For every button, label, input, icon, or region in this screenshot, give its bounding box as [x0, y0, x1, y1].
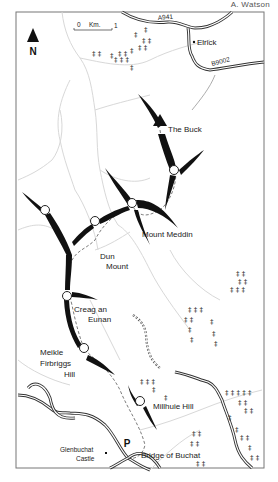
svg-text:‡ ‡ ‡: ‡ ‡ ‡ — [230, 286, 245, 294]
svg-text:‡: ‡ — [228, 414, 232, 422]
label-meikle-3: Hill — [64, 370, 75, 379]
svg-text:‡ ‡: ‡ ‡ — [238, 399, 248, 407]
svg-text:‡ ‡: ‡ ‡ — [250, 454, 260, 462]
label-glenbuchat-1: Glenbuchat — [60, 446, 93, 453]
svg-text:N: N — [29, 46, 36, 57]
svg-text:‡ ‡: ‡ ‡ — [236, 270, 246, 278]
svg-text:Km.: Km. — [89, 21, 101, 28]
svg-text:‡ ‡: ‡ ‡ — [196, 460, 206, 468]
elrick-dot — [193, 41, 195, 43]
boundary-line — [192, 75, 215, 110]
svg-text:‡ ‡: ‡ ‡ — [138, 44, 148, 52]
svg-text:‡: ‡ — [248, 444, 252, 452]
svg-text:‡: ‡ — [130, 64, 134, 72]
label-dun-mount-2: Mount — [106, 262, 129, 271]
svg-text:‡ ‡: ‡ ‡ — [92, 50, 102, 58]
label-the-buck: The Buck — [168, 125, 203, 134]
svg-text:‡ ‡: ‡ ‡ — [192, 430, 202, 438]
svg-text:‡: ‡ — [144, 26, 148, 34]
svg-text:‡: ‡ — [235, 426, 239, 434]
label-millhuie-hill: Millhuie Hill — [153, 402, 194, 411]
summit-circles — [41, 166, 179, 406]
svg-text:‡: ‡ — [152, 386, 156, 394]
road-label-a941: A941 — [157, 13, 173, 21]
north-arrow-icon: N — [27, 28, 39, 57]
svg-text:‡: ‡ — [210, 318, 214, 326]
scale-bar: 0 Km. 1 — [74, 21, 118, 30]
svg-text:‡: ‡ — [130, 47, 134, 55]
road-label-b9002: B9002 — [210, 55, 230, 67]
castle-marker — [105, 452, 107, 454]
svg-text:‡ ‡ ‡: ‡ ‡ ‡ — [140, 378, 155, 386]
svg-text:‡ ‡: ‡ ‡ — [190, 440, 200, 448]
svg-text:‡ ‡ ‡: ‡ ‡ ‡ — [114, 56, 129, 64]
svg-text:‡ ‡ ‡: ‡ ‡ ‡ — [188, 306, 203, 314]
svg-text:‡: ‡ — [190, 336, 194, 344]
svg-text:0: 0 — [77, 21, 81, 28]
svg-text:1: 1 — [114, 22, 118, 29]
parking-marker: P — [124, 438, 131, 449]
svg-text:‡: ‡ — [164, 394, 168, 402]
label-mount-meddin: Mount Meddin — [142, 230, 193, 239]
map-canvas: N 0 Km. 1 A941 B9002 Elrick The Buck Mou… — [0, 0, 278, 482]
label-bridge-of-buchat: Bridge of Buchat — [141, 451, 201, 460]
svg-text:‡: ‡ — [188, 326, 192, 334]
svg-text:‡ ‡: ‡ ‡ — [184, 316, 194, 324]
label-creag-an-eunan-2: Eunan — [88, 315, 111, 324]
svg-text:‡ ‡: ‡ ‡ — [244, 407, 254, 415]
label-glenbuchat-2: Castle — [76, 455, 95, 462]
place-elrick: Elrick — [197, 38, 218, 47]
svg-text:‡ ‡ ‡ ‡ ‡: ‡ ‡ ‡ ‡ ‡ — [225, 389, 252, 397]
label-meikle-1: Meikle — [40, 348, 64, 357]
label-creag-an-eunan-1: Creag an — [74, 305, 107, 314]
svg-text:‡: ‡ — [214, 340, 218, 348]
svg-text:‡ ‡: ‡ ‡ — [240, 434, 250, 442]
svg-text:‡ ‡: ‡ ‡ — [238, 278, 248, 286]
svg-text:‡: ‡ — [134, 31, 138, 39]
svg-text:‡: ‡ — [212, 330, 216, 338]
label-meikle-2: Firbriggs — [40, 359, 71, 368]
label-dun-mount-1: Dun — [100, 252, 115, 261]
